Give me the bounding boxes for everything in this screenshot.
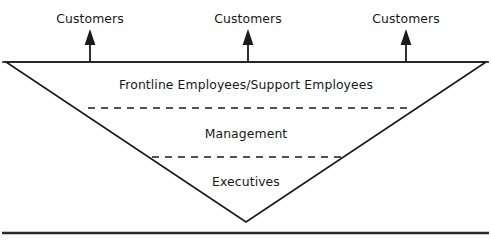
customer-arrow-3 [401,29,412,62]
tier-label-executives: Executives [212,176,280,188]
figure-root: . . . Customers Customers Customers [0,0,491,242]
tier-label-frontline-employees: Frontline Employees/Support Employees [119,79,373,91]
customers-label-1: Customers [56,13,124,25]
inverted-pyramid-diagram-canvas [0,0,491,242]
tier-label-management: Management [205,128,288,140]
customer-arrow-2 [243,29,254,62]
customers-label-2: Customers [214,13,282,25]
customers-label-3: Customers [372,13,440,25]
customer-arrow-1 [85,29,96,62]
